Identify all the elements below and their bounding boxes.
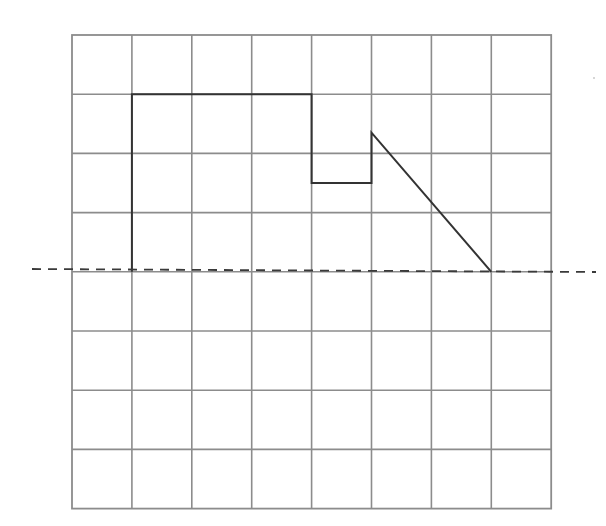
grid-diagram: [0, 0, 606, 526]
scan-speck: [593, 77, 595, 79]
